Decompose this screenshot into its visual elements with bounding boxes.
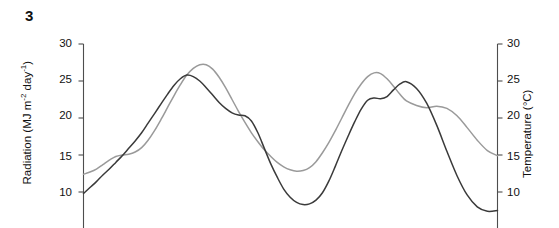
right-axis-ticks <box>498 44 503 192</box>
chart-figure: 3 Radiation (MJ m-2 day-1) Temperature (… <box>0 0 559 228</box>
series-line-temperature <box>84 64 498 174</box>
left-axis-ticks <box>79 44 84 192</box>
plot-area <box>0 0 559 228</box>
